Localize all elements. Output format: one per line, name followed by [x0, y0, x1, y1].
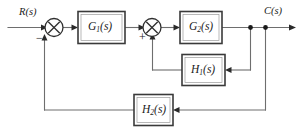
wire-g2-to-output: [222, 25, 296, 31]
summing-junction-1[interactable]: [45, 19, 63, 37]
summing-junction-2-sign: +: [139, 31, 146, 43]
junction-dot-inner-tap: [248, 25, 253, 30]
block-g1-label: G1(s): [88, 21, 112, 33]
block-diagram: R(s) C(s) G1(s) G2(s) H1(s) H2(s) − +: [0, 0, 304, 131]
block-h2-label: H2(s): [142, 104, 166, 116]
summing-junction-1-sign: −: [36, 32, 43, 44]
output-label: C(s): [264, 6, 282, 17]
block-h1-label: H1(s): [191, 64, 215, 76]
input-label: R(s): [19, 7, 37, 18]
wire-sum2-to-g2: [159, 25, 180, 31]
wire-input-to-sum1: [8, 25, 48, 31]
junction-dot-outer-tap: [263, 25, 268, 30]
block-g2-label: G2(s): [189, 21, 213, 33]
